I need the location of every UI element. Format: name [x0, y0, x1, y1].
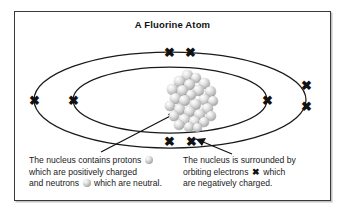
neutron-icon — [83, 179, 91, 187]
electron-marker: ✖ — [301, 99, 312, 114]
caption-text: and neutrons — [29, 178, 82, 188]
caption-text: orbiting electrons — [183, 167, 251, 177]
caption-line: and neutrons which are neutral. — [29, 178, 162, 190]
caption-line: which are positively charged — [29, 167, 162, 179]
figure-root: A Fluorine Atom ✖ ✖ ✖ ✖ ✖ ✖ ✖ ✖ ✖ — [0, 0, 345, 213]
nucleon — [174, 120, 184, 130]
caption-line: orbiting electrons ✖ which — [183, 167, 296, 179]
caption-text: which are neutral. — [92, 178, 162, 188]
electron-marker: ✖ — [68, 93, 79, 108]
electron-caption: The nucleus is surrounded by orbiting el… — [183, 155, 296, 190]
electron-icon: ✖ — [252, 167, 260, 179]
electron-marker: ✖ — [301, 78, 312, 93]
caption-line: The nucleus is surrounded by — [183, 155, 296, 167]
pointer-line-to-electrons — [196, 138, 232, 154]
electron-marker: ✖ — [262, 93, 273, 108]
nucleus-caption: The nucleus contains protons which are p… — [29, 155, 162, 190]
proton-icon — [145, 156, 153, 164]
electron-marker: ✖ — [29, 93, 40, 108]
electron-marker: ✖ — [185, 45, 196, 60]
electron-marker: ✖ — [164, 134, 175, 149]
caption-line: The nucleus contains protons — [29, 155, 162, 167]
caption-text: which — [261, 167, 285, 177]
caption-text: The nucleus contains protons — [29, 155, 144, 165]
nucleus — [162, 70, 220, 132]
nucleon — [193, 123, 202, 132]
caption-line: are negatively charged. — [183, 178, 296, 190]
figure-frame: A Fluorine Atom ✖ ✖ ✖ ✖ ✖ ✖ ✖ ✖ ✖ — [14, 11, 331, 201]
electron-marker: ✖ — [164, 45, 175, 60]
electron-marker: ✖ — [186, 134, 197, 149]
